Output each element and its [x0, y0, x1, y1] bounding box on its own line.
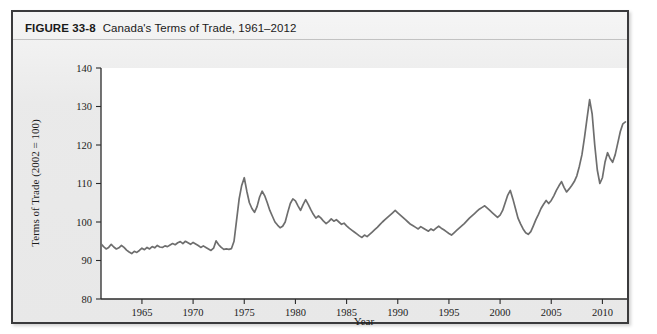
x-tick-label: 1995 [438, 307, 459, 318]
x-tick-label: 1980 [285, 307, 306, 318]
x-tick-label: 1970 [183, 307, 204, 318]
y-tick-label: 90 [82, 255, 93, 266]
x-tick-label: 1965 [131, 307, 152, 318]
x-tick-label: 1975 [234, 307, 255, 318]
x-axis-title: Year [354, 315, 375, 326]
y-tick-label: 130 [76, 101, 92, 112]
figure-caption-bar: FIGURE 33-8Canada's Terms of Trade, 1961… [13, 12, 627, 40]
x-tick-label: 2000 [490, 307, 511, 318]
y-tick-label: 100 [76, 217, 92, 228]
plot-background [101, 68, 627, 299]
figure-number-label: FIGURE 33-8 [25, 22, 96, 34]
chart-area: 8090100110120130140 19651970197519801985… [13, 40, 627, 326]
y-axis-title: Terms of Trade (2002 = 100) [29, 119, 42, 247]
x-tick-label: 2010 [592, 307, 613, 318]
x-tick-label: 2005 [541, 307, 562, 318]
y-tick-label: 120 [76, 140, 92, 151]
y-tick-label: 80 [82, 294, 93, 305]
y-tick-label: 110 [77, 178, 92, 189]
figure-title: Canada's Terms of Trade, 1961–2012 [103, 22, 297, 34]
x-tick-label: 1990 [387, 307, 408, 318]
y-axis-ticks: 8090100110120130140 [76, 63, 101, 305]
figure-box: FIGURE 33-8Canada's Terms of Trade, 1961… [11, 10, 629, 324]
terms-of-trade-line-chart: 8090100110120130140 19651970197519801985… [13, 40, 627, 326]
y-tick-label: 140 [76, 63, 92, 74]
figure-root: FIGURE 33-8Canada's Terms of Trade, 1961… [0, 0, 657, 334]
